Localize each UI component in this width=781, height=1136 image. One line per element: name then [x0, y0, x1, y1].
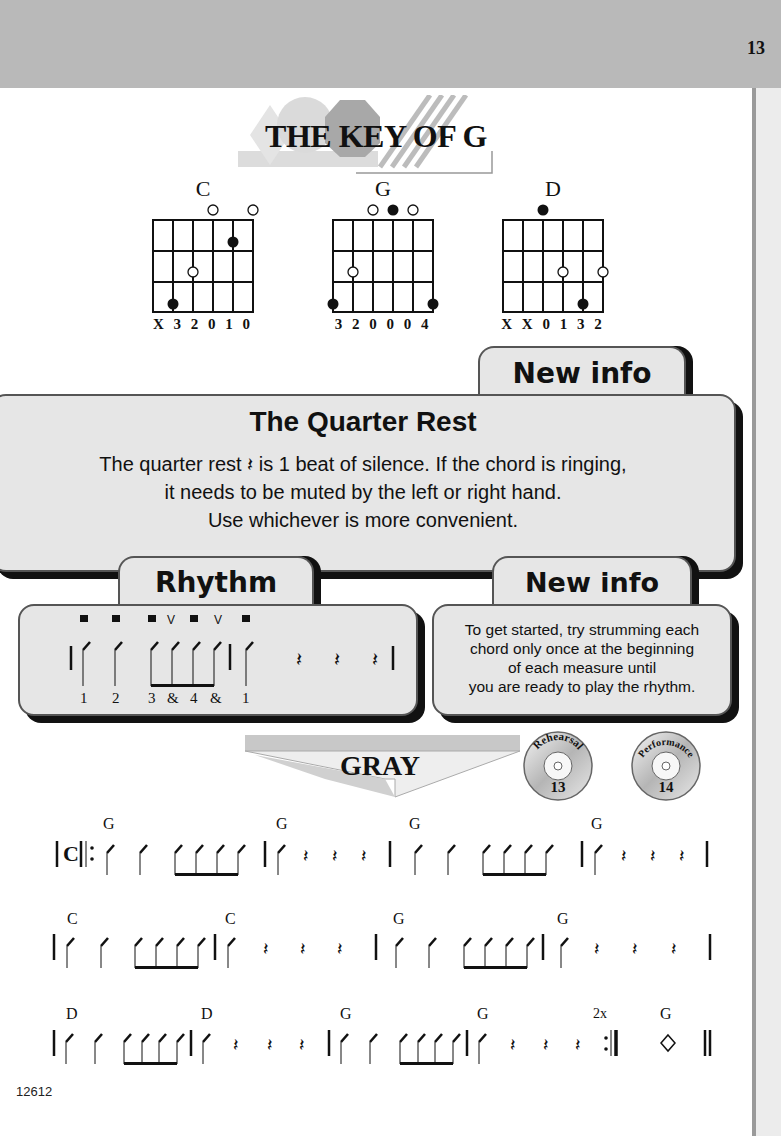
count-4: 4 [190, 690, 198, 707]
tab-label: New info [513, 357, 652, 390]
svg-text:𝄽: 𝄽 [671, 939, 677, 959]
whole-note-diamond [661, 1035, 675, 1051]
chord-fingering: X 3 2 0 1 0 [140, 316, 266, 333]
cd-track-number: 13 [522, 779, 594, 796]
chord-grid [320, 202, 446, 314]
svg-text:V: V [167, 613, 175, 627]
text-line: To get started, try strumming each [434, 620, 730, 639]
svg-text:C: C [63, 841, 79, 866]
chord-name: D [490, 176, 616, 202]
rhythm-box: VV 𝄽𝄽𝄽 1 2 3 & 4 & 1 [18, 604, 418, 716]
chord-fingering: X X 0 1 3 2 [490, 316, 616, 333]
text-line: it needs to be muted by the left or righ… [0, 478, 734, 506]
song-title: GRAY [300, 750, 460, 782]
chord-grid [140, 202, 266, 314]
notation: C 𝄽𝄽𝄽𝄽𝄽𝄽 [0, 815, 752, 885]
count-2: 2 [112, 690, 120, 707]
svg-text:𝄽: 𝄽 [510, 1035, 516, 1055]
count-1: 1 [242, 690, 250, 707]
tip-text: To get started, try strumming each chord… [434, 620, 730, 696]
svg-text:𝄽: 𝄽 [372, 648, 378, 670]
svg-text:𝄽: 𝄽 [543, 1035, 549, 1055]
quarter-rest-title: The Quarter Rest [0, 406, 734, 438]
svg-text:𝄽: 𝄽 [679, 846, 685, 866]
svg-text:𝄽: 𝄽 [267, 1035, 273, 1055]
chord-fingering: 3 2 0 0 0 4 [320, 316, 446, 333]
svg-text:𝄽: 𝄽 [621, 846, 627, 866]
new-info-tab: New info [478, 346, 686, 398]
text-line: chord only once at the beginning [434, 639, 730, 658]
catalog-number: 12612 [16, 1084, 52, 1099]
tip-box: To get started, try strumming each chord… [432, 604, 732, 716]
svg-text:𝄽: 𝄽 [299, 1035, 305, 1055]
chord-diagram-d: D X X 0 1 3 2 [490, 176, 616, 336]
page-number: 13 [747, 38, 765, 59]
svg-text:𝄽: 𝄽 [303, 846, 309, 866]
count-and: & [210, 690, 222, 707]
svg-text:𝄽: 𝄽 [361, 846, 367, 866]
staff-system-1: G G G G C 𝄽𝄽𝄽𝄽𝄽𝄽 [0, 815, 752, 885]
notation: 𝄽𝄽𝄽𝄽𝄽𝄽 [0, 1005, 752, 1075]
page-header-band [0, 0, 781, 88]
page-edge-rail [752, 88, 781, 1136]
cd-track-rehearsal[interactable]: Rehearsal 13 [522, 730, 594, 802]
text-line: The quarter rest 𝄽 is 1 beat of silence.… [0, 450, 734, 478]
quarter-rest-text: The quarter rest 𝄽 is 1 beat of silence.… [0, 450, 734, 534]
chord-diagram-c: C X 3 2 0 1 0 [140, 176, 266, 336]
text-line: you are ready to play the rhythm. [434, 677, 730, 696]
svg-text:𝄽: 𝄽 [296, 648, 302, 670]
chord-name: G [320, 176, 446, 202]
count-and: & [167, 690, 179, 707]
svg-text:𝄽: 𝄽 [337, 939, 343, 959]
svg-text:𝄽: 𝄽 [575, 1035, 581, 1055]
quarter-rest-box: The Quarter Rest The quarter rest 𝄽 is 1… [0, 394, 736, 572]
svg-text:𝄽: 𝄽 [650, 846, 656, 866]
chord-grid [490, 202, 616, 314]
tab-label: Rhythm [155, 566, 277, 599]
staff-system-2: C C G G 𝄽𝄽𝄽𝄽𝄽𝄽 [0, 910, 752, 980]
staff-system-3: D D G G 2x G 𝄽𝄽𝄽𝄽𝄽𝄽 [0, 1005, 752, 1075]
text-line: Use whichever is more convenient. [0, 506, 734, 534]
svg-text:𝄽: 𝄽 [632, 939, 638, 959]
svg-text:𝄽: 𝄽 [263, 939, 269, 959]
svg-text:V: V [214, 613, 222, 627]
count-3: 3 [148, 690, 156, 707]
new-info-tab: New info [492, 556, 692, 606]
svg-text:𝄽: 𝄽 [332, 846, 338, 866]
text-line: of each measure until [434, 658, 730, 677]
count-1: 1 [80, 690, 88, 707]
svg-text:𝄽: 𝄽 [300, 939, 306, 959]
page-title: THE KEY OF G [0, 118, 752, 155]
rhythm-tab: Rhythm [118, 556, 314, 606]
chord-name: C [140, 176, 266, 202]
chord-diagram-g: G 3 2 0 0 0 4 [320, 176, 446, 336]
notation: 𝄽𝄽𝄽𝄽𝄽𝄽 [0, 910, 752, 980]
cd-track-number: 14 [630, 779, 702, 796]
svg-text:𝄽: 𝄽 [233, 1035, 239, 1055]
svg-text:𝄽: 𝄽 [594, 939, 600, 959]
svg-text:𝄽: 𝄽 [334, 648, 340, 670]
cd-track-performance[interactable]: Performance 14 [630, 730, 702, 802]
tab-label: New info [525, 567, 659, 598]
